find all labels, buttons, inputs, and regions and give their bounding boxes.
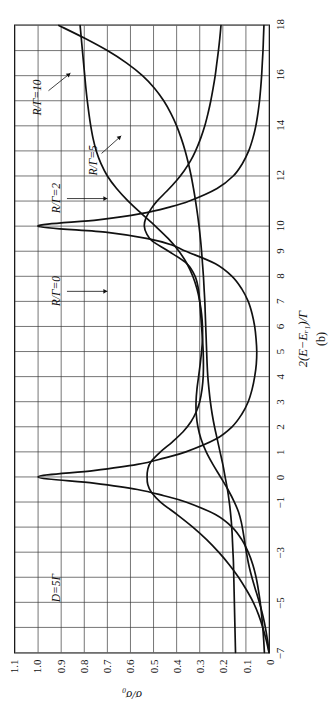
x-tick-label: 2	[275, 424, 286, 430]
x-tick-label: 7	[275, 298, 286, 304]
curve-label-r2: R/Γ=2	[50, 182, 62, 212]
x-tick-label: 14	[275, 119, 286, 130]
y-tick-label: 1.0	[32, 659, 43, 691]
y-tick-label: 0.3	[195, 659, 206, 691]
curve-label-r10: R/Γ=10	[31, 79, 43, 115]
y-tick-label: 0.4	[171, 659, 182, 691]
y-tick-label: 0.9	[55, 659, 66, 691]
x-tick-label: 18	[275, 19, 286, 30]
curve-label-r0: R/Γ=0	[50, 276, 62, 306]
panel-caption: (b)	[314, 24, 329, 653]
y-tick-label: 0.7	[102, 659, 113, 691]
x-tick-label: 5	[275, 348, 286, 354]
x-tick-label: 0	[275, 474, 286, 480]
x-tick-label: 8	[275, 273, 286, 279]
y-tick-label: 0.8	[78, 659, 89, 691]
x-tick-label: −5	[275, 597, 286, 609]
y-tick-label: 1.1	[9, 659, 20, 691]
x-tick-label: 10	[275, 220, 286, 231]
y-axis-label: σ/σ₀	[122, 686, 142, 701]
curve-layer	[15, 25, 269, 652]
x-tick-label: −3	[275, 547, 286, 559]
x-tick-label: 9	[275, 248, 286, 254]
leader-arrowhead	[103, 196, 107, 201]
x-tick-label: 16	[275, 69, 286, 80]
parameter-note: D=5Γ	[50, 573, 62, 601]
x-axis-label: 2(E−Eᵣ₁)/Γ	[296, 24, 311, 653]
y-tick-label: 0.5	[148, 659, 159, 691]
curve-0	[38, 25, 264, 652]
x-tick-label: 6	[275, 323, 286, 329]
curve-label-r5: R/Γ=5	[87, 145, 99, 175]
x-tick-label: −7	[275, 647, 286, 659]
x-tick-label: 3	[275, 399, 286, 405]
curve-3	[59, 25, 236, 652]
x-tick-label: 1	[275, 449, 286, 455]
y-tick-label: 0.1	[241, 659, 252, 691]
y-tick-label: 0	[265, 659, 276, 691]
x-tick-label: 4	[275, 374, 286, 380]
plot-area	[14, 24, 270, 653]
x-tick-label: −1	[275, 496, 286, 508]
leader-arrowhead	[103, 288, 107, 293]
y-tick-label: 0.2	[218, 659, 229, 691]
x-tick-label: 12	[275, 169, 286, 180]
